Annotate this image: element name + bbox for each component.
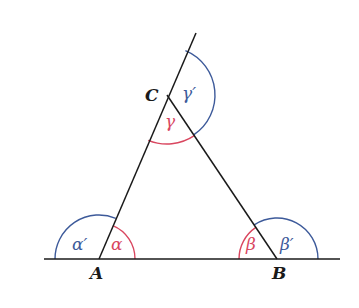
side-cb: [167, 95, 277, 259]
vertex-label-c: C: [145, 85, 159, 105]
angle-label-gamma: γ: [165, 111, 176, 131]
vertex-label-b: B: [271, 263, 286, 283]
angle-label-beta-prime: β′: [279, 234, 294, 254]
triangle-exterior-angles-diagram: A B C α′ α β β′ γ′ γ: [0, 0, 359, 308]
diagram-canvas: A B C α′ α β β′ γ′ γ: [0, 0, 359, 308]
angle-label-beta: β: [245, 234, 256, 254]
angle-label-gamma-prime: γ′: [182, 83, 196, 103]
angle-label-alpha: α: [111, 234, 123, 254]
side-ac-extended: [99, 33, 196, 259]
angle-label-alpha-prime: α′: [72, 234, 87, 254]
arc-gamma: [148, 136, 194, 144]
vertex-label-a: A: [88, 263, 103, 283]
